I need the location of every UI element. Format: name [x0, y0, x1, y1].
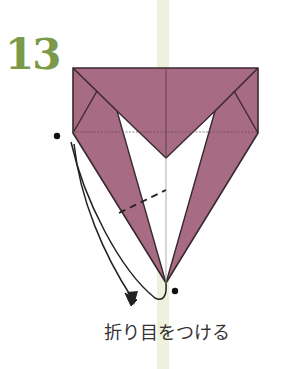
paper-shape: [73, 68, 258, 283]
dot-marker-icon: [172, 288, 178, 294]
origami-fold-diagram: [0, 0, 283, 369]
instruction-text: 折り目をつける: [0, 318, 283, 344]
dot-marker-icon: [54, 133, 60, 139]
